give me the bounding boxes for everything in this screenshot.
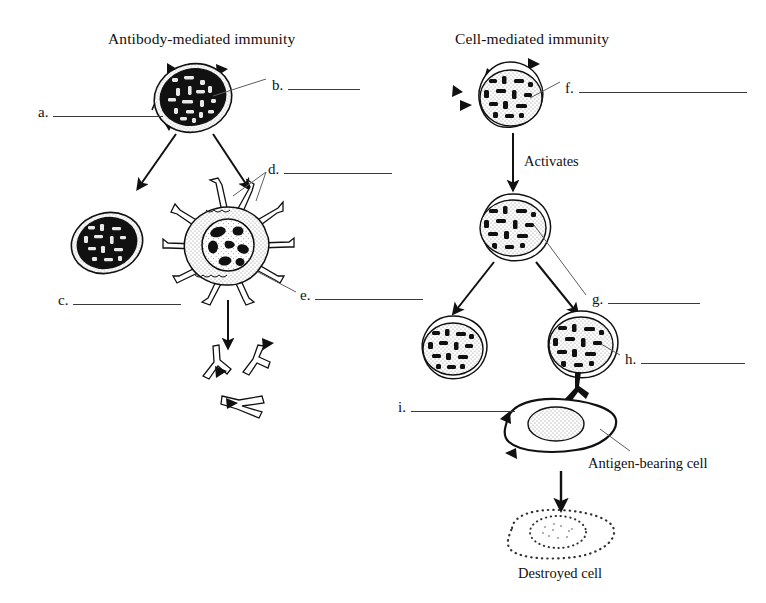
arrow-left-branch-2 bbox=[213, 134, 246, 184]
heading-cell-mediated-immunity: Cell-mediated immunity bbox=[455, 31, 609, 47]
arrow-right-branch-1 bbox=[457, 262, 494, 309]
blank-label-b[interactable]: b. bbox=[272, 78, 360, 93]
cell-destroyed-cell-shape bbox=[508, 510, 614, 559]
blank-key-a: a. bbox=[38, 105, 48, 120]
blank-label-g[interactable]: g. bbox=[592, 292, 700, 307]
immunity-diagram-page: Antibody-mediated immunity Cell-mediated… bbox=[0, 0, 766, 603]
antibody-1 bbox=[203, 345, 231, 379]
cell-plasma-cell-with-projections bbox=[163, 172, 296, 305]
blank-key-e: e. bbox=[300, 288, 310, 303]
blank-label-e[interactable]: e. bbox=[300, 288, 423, 303]
blank-rule-b[interactable] bbox=[288, 89, 360, 90]
blank-key-i: i. bbox=[398, 400, 406, 415]
blank-rule-f[interactable] bbox=[579, 92, 747, 93]
antibody-2 bbox=[243, 338, 274, 375]
arrow-right-branch-2 bbox=[536, 262, 574, 309]
caption-activates: Activates bbox=[524, 154, 579, 169]
blank-key-g: g. bbox=[592, 292, 603, 307]
blank-rule-e[interactable] bbox=[315, 299, 423, 300]
blank-label-i[interactable]: i. bbox=[398, 400, 515, 415]
cell-lymphocyte-right-top bbox=[479, 62, 560, 127]
blank-key-c: c. bbox=[58, 293, 68, 308]
cell-plasma-memory-cell-left bbox=[64, 204, 150, 282]
cell-antigen-presenting-lymphocyte-left bbox=[147, 56, 266, 141]
blank-label-a[interactable]: a. bbox=[38, 105, 163, 120]
arrow-left-branch-1 bbox=[141, 134, 176, 184]
blank-rule-c[interactable] bbox=[73, 304, 181, 305]
caption-antigen-bearing-cell: Antigen-bearing cell bbox=[588, 456, 708, 471]
antibody-3 bbox=[221, 396, 264, 418]
blank-rule-g[interactable] bbox=[608, 303, 700, 304]
blank-key-d: d. bbox=[268, 162, 279, 177]
cell-lymphocyte-right-middle bbox=[480, 194, 586, 295]
cell-antigen-bearing-cell-shape bbox=[500, 399, 630, 459]
blank-label-d[interactable]: d. bbox=[268, 162, 392, 177]
cell-lymphocyte-right-lower-left bbox=[422, 316, 487, 379]
blank-rule-d[interactable] bbox=[284, 173, 392, 174]
caption-destroyed-cell: Destroyed cell bbox=[518, 566, 602, 581]
heading-antibody-mediated-immunity: Antibody-mediated immunity bbox=[108, 31, 295, 47]
blank-key-h: h. bbox=[625, 352, 636, 367]
cell-lymphocyte-right-lower-right bbox=[548, 311, 620, 378]
blank-rule-a[interactable] bbox=[53, 116, 163, 117]
blank-rule-i[interactable] bbox=[411, 411, 515, 412]
blank-label-h[interactable]: h. bbox=[625, 352, 745, 367]
blank-key-f: f. bbox=[565, 81, 574, 96]
blank-key-b: b. bbox=[272, 78, 283, 93]
blank-rule-h[interactable] bbox=[641, 363, 745, 364]
blank-label-c[interactable]: c. bbox=[58, 293, 181, 308]
blank-label-f[interactable]: f. bbox=[565, 81, 747, 96]
